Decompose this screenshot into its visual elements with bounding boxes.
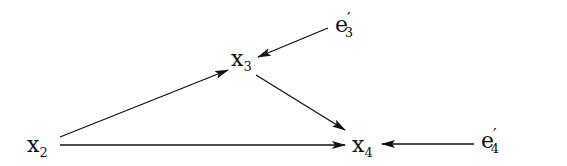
edge-x3-x4	[256, 75, 345, 130]
node-x4-sub: 4	[364, 145, 372, 160]
node-x2-base: x	[27, 132, 39, 157]
node-x4: x4	[352, 134, 373, 159]
edge-x2-x3	[60, 70, 228, 137]
node-x4-base: x	[352, 132, 364, 157]
node-x3-sub: 3	[243, 59, 251, 74]
node-x3: x3	[231, 48, 252, 73]
node-x2-sub: 2	[39, 145, 47, 160]
node-e3-prime-mark: ′	[347, 9, 351, 28]
node-e4-prime-mark: ′	[493, 125, 497, 144]
node-e3-prime: e′3	[335, 14, 353, 39]
edge-e3-x3	[258, 28, 328, 57]
node-x2: x2	[27, 134, 48, 159]
node-x3-base: x	[231, 46, 243, 71]
node-e4-prime: e′4	[481, 130, 499, 155]
